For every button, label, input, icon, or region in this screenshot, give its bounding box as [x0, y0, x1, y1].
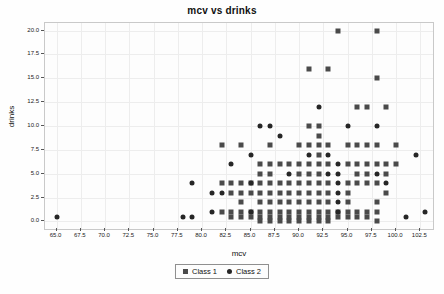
y-tick-label: 17.5: [14, 50, 39, 56]
data-point-class-1: [326, 181, 331, 186]
data-point-class-2: [209, 209, 214, 214]
y-tick-mark: [41, 125, 44, 126]
data-point-class-2: [229, 162, 234, 167]
data-point-class-1: [287, 162, 292, 167]
y-tick-mark: [41, 77, 44, 78]
data-point-class-1: [365, 171, 370, 176]
y-tick-mark: [41, 220, 44, 221]
data-point-class-1: [219, 209, 224, 214]
data-point-class-1: [268, 171, 273, 176]
data-point-class-2: [190, 214, 195, 219]
x-tick-label: 75.0: [147, 232, 159, 238]
data-point-class-1: [277, 190, 282, 195]
x-tick-label: 77.5: [171, 232, 183, 238]
data-point-class-1: [248, 214, 253, 219]
data-point-class-1: [355, 104, 360, 109]
data-point-class-2: [190, 181, 195, 186]
data-point-class-1: [316, 152, 321, 157]
x-tick-mark: [80, 228, 81, 231]
data-point-class-1: [374, 28, 379, 33]
data-point-class-1: [374, 200, 379, 205]
data-point-class-2: [326, 171, 331, 176]
data-point-class-1: [316, 200, 321, 205]
y-tick-label: 15.0: [14, 74, 39, 80]
data-point-class-1: [297, 181, 302, 186]
data-point-class-2: [326, 152, 331, 157]
data-point-class-1: [365, 143, 370, 148]
data-point-class-1: [297, 200, 302, 205]
data-point-class-1: [229, 214, 234, 219]
y-tick-label: 20.0: [14, 27, 39, 33]
data-point-class-1: [384, 104, 389, 109]
data-point-class-1: [277, 162, 282, 167]
data-point-class-1: [258, 219, 263, 224]
data-point-class-1: [365, 162, 370, 167]
data-point-class-1: [365, 104, 370, 109]
data-point-class-1: [316, 171, 321, 176]
data-point-class-1: [268, 200, 273, 205]
data-point-class-1: [297, 171, 302, 176]
x-tick-label: 102.5: [412, 232, 427, 238]
data-point-class-1: [316, 143, 321, 148]
data-point-class-1: [277, 200, 282, 205]
x-tick-label: 82.5: [220, 232, 232, 238]
data-point-class-1: [297, 143, 302, 148]
data-point-class-1: [258, 181, 263, 186]
data-point-class-1: [238, 190, 243, 195]
data-point-class-1: [345, 143, 350, 148]
data-point-class-1: [248, 190, 253, 195]
data-point-class-1: [306, 162, 311, 167]
y-tick-label: 12.5: [14, 98, 39, 104]
legend-entry-class-1[interactable]: Class 1: [183, 267, 217, 276]
data-point-class-1: [374, 76, 379, 81]
data-point-class-2: [335, 162, 340, 167]
data-point-class-1: [374, 162, 379, 167]
y-tick-mark: [41, 30, 44, 31]
data-point-class-2: [335, 209, 340, 214]
y-tick-mark: [41, 173, 44, 174]
x-tick-mark: [347, 228, 348, 231]
data-point-class-1: [394, 143, 399, 148]
data-point-class-1: [297, 219, 302, 224]
x-tick-mark: [153, 228, 154, 231]
data-point-class-1: [384, 190, 389, 195]
data-point-class-1: [326, 219, 331, 224]
data-point-class-2: [335, 181, 340, 186]
data-point-class-1: [355, 181, 360, 186]
x-tick-mark: [128, 228, 129, 231]
data-point-class-2: [384, 181, 389, 186]
legend-entry-class-2[interactable]: Class 2: [227, 267, 261, 276]
data-point-class-1: [306, 200, 311, 205]
data-point-class-1: [345, 162, 350, 167]
x-tick-label: 80.0: [195, 232, 207, 238]
data-point-class-2: [248, 209, 253, 214]
data-point-class-1: [277, 219, 282, 224]
data-point-class-2: [219, 190, 224, 195]
data-point-class-1: [326, 162, 331, 167]
data-point-class-1: [297, 162, 302, 167]
data-point-class-1: [277, 181, 282, 186]
data-point-class-1: [238, 200, 243, 205]
data-point-class-1: [287, 200, 292, 205]
data-point-class-1: [316, 133, 321, 138]
x-tick-label: 85.0: [244, 232, 256, 238]
data-point-class-2: [374, 124, 379, 129]
scatter-points: [45, 23, 433, 229]
y-tick-label: 0.0: [14, 217, 39, 223]
data-point-class-2: [258, 124, 263, 129]
data-point-class-2: [180, 214, 185, 219]
data-point-class-1: [306, 66, 311, 71]
data-point-class-1: [374, 219, 379, 224]
data-point-class-1: [335, 214, 340, 219]
data-point-class-1: [258, 171, 263, 176]
data-point-class-1: [374, 209, 379, 214]
data-point-class-1: [268, 219, 273, 224]
data-point-class-2: [413, 152, 418, 157]
data-point-class-2: [277, 133, 282, 138]
data-point-class-2: [268, 124, 273, 129]
y-tick-label: 7.5: [14, 146, 39, 152]
y-tick-mark: [41, 53, 44, 54]
data-point-class-1: [365, 181, 370, 186]
data-point-class-2: [335, 200, 340, 205]
data-point-class-1: [306, 143, 311, 148]
